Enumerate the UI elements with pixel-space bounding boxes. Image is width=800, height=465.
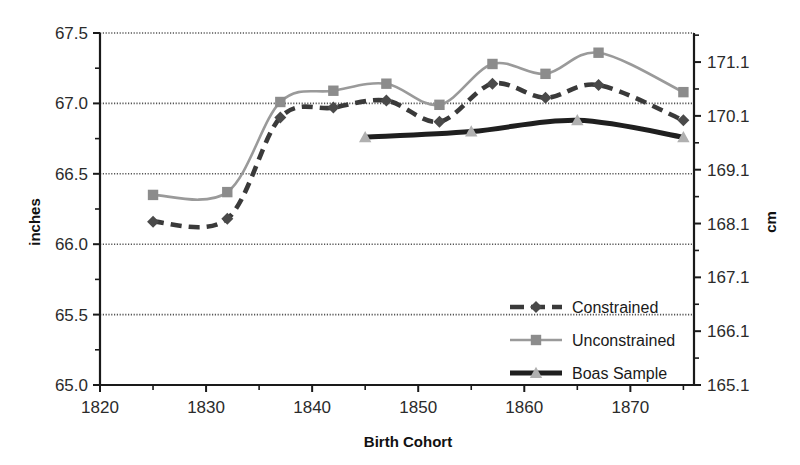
series-marker [540,69,550,79]
y2-tick-label: 170.1 [707,107,750,126]
legend-label: Constrained [572,299,658,316]
y-tick-label: 66.5 [55,165,88,184]
y-tick-label: 65.5 [55,306,88,325]
y2-tick-label: 165.1 [707,376,750,395]
y2-tick-label: 166.1 [707,322,750,341]
legend-label: Boas Sample [572,365,667,382]
y-tick-label: 66.0 [55,235,88,254]
y2-tick-label: 168.1 [707,215,750,234]
x-tick-label: 1820 [81,398,119,417]
x-tick-label: 1850 [399,398,437,417]
y-axis-title: inches [26,198,43,246]
x-tick-label: 1840 [293,398,331,417]
x-tick-label: 1860 [505,398,543,417]
y2-tick-label: 169.1 [707,161,750,180]
series-marker [328,86,338,96]
series-marker [678,87,688,97]
x-tick-label: 1870 [611,398,649,417]
x-tick-label: 1830 [187,398,225,417]
series-marker [148,190,158,200]
series-marker [487,59,497,69]
legend-marker [531,335,541,345]
chart-background [0,0,800,465]
y2-tick-label: 171.1 [707,53,750,72]
secondary-y-axis-title: cm [762,211,779,233]
y2-tick-label: 167.1 [707,268,750,287]
y-tick-label: 65.0 [55,376,88,395]
series-marker [381,78,391,88]
series-marker [593,48,603,58]
legend-label: Unconstrained [572,332,675,349]
y-tick-label: 67.5 [55,24,88,43]
chart-canvas: 65.065.566.066.567.067.51820183018401850… [0,0,800,465]
x-axis-title: Birth Cohort [364,433,452,450]
y-tick-label: 67.0 [55,94,88,113]
chart-legend: ConstrainedUnconstrainedBoas Sample [510,299,675,382]
series-marker [222,187,232,197]
chart-figure: 65.065.566.066.567.067.51820183018401850… [0,0,800,465]
series-marker [275,97,285,107]
series-marker [434,100,444,110]
